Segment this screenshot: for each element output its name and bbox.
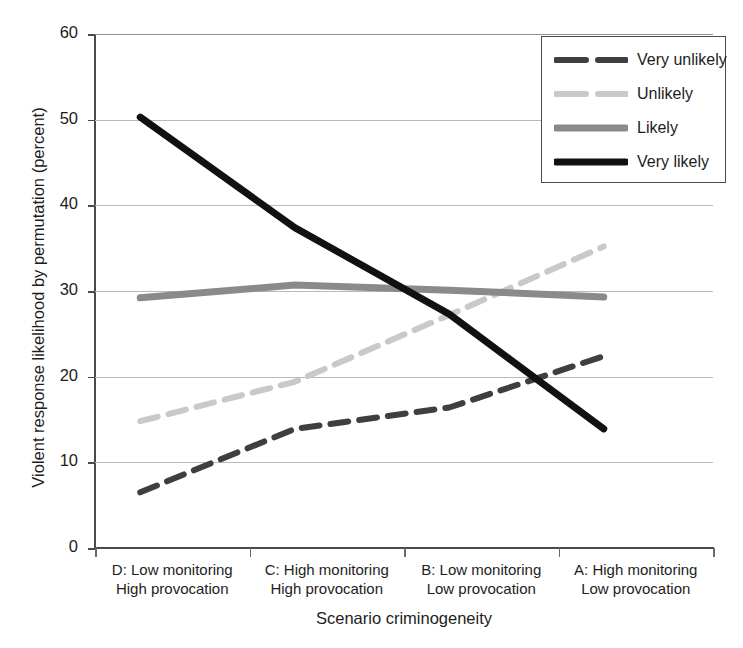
x-category-line: High provocation bbox=[97, 579, 247, 598]
x-category-line: C: High monitoring bbox=[252, 560, 402, 579]
x-category-line: A: High monitoring bbox=[561, 560, 711, 579]
legend: Very unlikelyUnlikelyLikelyVery likely bbox=[541, 36, 726, 183]
x-category-line: Low provocation bbox=[561, 579, 711, 598]
legend-label: Very unlikely bbox=[637, 51, 727, 69]
legend-label: Unlikely bbox=[637, 85, 693, 103]
legend-item[interactable]: Very likely bbox=[554, 145, 709, 179]
x-category-line: Low provocation bbox=[406, 579, 556, 598]
x-category-line: B: Low monitoring bbox=[406, 560, 556, 579]
x-tick-mark bbox=[559, 548, 561, 557]
x-category-label: B: Low monitoringLow provocation bbox=[406, 560, 556, 598]
legend-swatch-likely bbox=[554, 121, 628, 135]
x-tick-mark bbox=[95, 548, 97, 557]
x-tick-mark bbox=[404, 548, 406, 557]
y-tick-label: 30 bbox=[32, 280, 78, 299]
x-category-label: D: Low monitoringHigh provocation bbox=[97, 560, 247, 598]
legend-label: Likely bbox=[637, 119, 678, 137]
legend-swatch-very-unlikely bbox=[554, 53, 628, 67]
x-tick-mark bbox=[250, 548, 252, 557]
legend-label: Very likely bbox=[637, 153, 709, 171]
y-tick-label: 60 bbox=[32, 23, 78, 42]
x-category-line: D: Low monitoring bbox=[97, 560, 247, 579]
chart-figure: Violent response likelihood by permutati… bbox=[0, 0, 743, 648]
y-tick-label: 0 bbox=[32, 537, 78, 556]
legend-swatch-very-likely bbox=[554, 155, 628, 169]
x-axis-title: Scenario criminogeneity bbox=[95, 609, 713, 628]
legend-item[interactable]: Likely bbox=[554, 111, 678, 145]
legend-item[interactable]: Very unlikely bbox=[554, 43, 727, 77]
y-tick-label: 10 bbox=[32, 451, 78, 470]
x-category-line: High provocation bbox=[252, 579, 402, 598]
x-tick-mark bbox=[713, 548, 715, 557]
y-tick-label: 20 bbox=[32, 366, 78, 385]
x-category-label: C: High monitoringHigh provocation bbox=[252, 560, 402, 598]
y-tick-label: 40 bbox=[32, 194, 78, 213]
legend-swatch-unlikely bbox=[554, 87, 628, 101]
series-line bbox=[140, 285, 604, 298]
legend-item[interactable]: Unlikely bbox=[554, 77, 693, 111]
x-category-label: A: High monitoringLow provocation bbox=[561, 560, 711, 598]
y-tick-label: 50 bbox=[32, 109, 78, 128]
